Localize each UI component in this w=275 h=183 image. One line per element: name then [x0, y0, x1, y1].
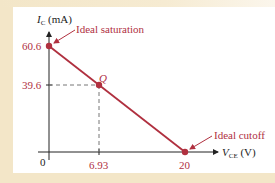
- x-tick-q: 6.93: [89, 159, 108, 171]
- x-tick-origin: 0: [40, 156, 46, 168]
- q-annotation: Q: [99, 72, 107, 84]
- y-axis-label: IC (mA): [37, 13, 72, 29]
- y-tick-saturation: 60.6: [22, 40, 41, 52]
- load-line: [49, 46, 185, 152]
- cutoff-point: [182, 149, 188, 155]
- saturation-arrow: [54, 30, 75, 43]
- cutoff-annotation: Ideal cutoff: [214, 129, 265, 141]
- cutoff-arrow: [190, 136, 212, 149]
- y-tick-q: 39.6: [22, 79, 41, 91]
- x-axis-label: VCE (V): [222, 146, 256, 162]
- saturation-annotation: Ideal saturation: [76, 23, 144, 35]
- saturation-point: [46, 43, 52, 49]
- x-tick-cutoff: 20: [179, 159, 190, 171]
